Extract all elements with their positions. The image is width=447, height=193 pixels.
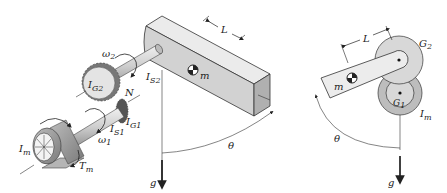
n-label: N <box>124 87 135 98</box>
gravity-label: g <box>150 177 156 188</box>
theta-label: θ <box>228 140 234 151</box>
im-label: Im <box>18 143 31 157</box>
ig1-label: IG1 <box>125 116 141 130</box>
mechanism-diagram: m L IG2 <box>0 0 447 193</box>
length-label-2d: L <box>362 33 370 44</box>
g1-pivot-icon <box>398 91 401 94</box>
motor <box>33 120 84 168</box>
center-of-mass-icon <box>188 65 198 75</box>
g2-pivot-icon <box>397 58 400 61</box>
is2-label: IS2 <box>145 71 161 85</box>
tm-label: Tm <box>79 160 94 174</box>
im-label-2d: Im <box>419 108 432 122</box>
is1-label: IS1 <box>109 123 125 137</box>
theta-arc <box>162 112 272 153</box>
left-3d-view: m L IG2 <box>18 16 272 188</box>
center-of-mass-icon-2d <box>347 73 357 83</box>
omega1-label: ω1 <box>98 134 111 147</box>
mass-label: m <box>200 70 209 81</box>
motor-axis-line <box>20 165 34 174</box>
mass-label-2d: m <box>334 81 343 92</box>
omega2-label: ω2 <box>102 48 115 61</box>
length-label: L <box>220 24 228 35</box>
theta-label-2d: θ <box>334 133 340 144</box>
g2-label: G2 <box>419 38 432 51</box>
g2-axis-line <box>76 91 86 97</box>
arm-link <box>144 16 270 116</box>
gravity-label-2d: g <box>388 177 394 188</box>
right-2d-view: L m G2 G1 Im θ g <box>316 26 432 188</box>
